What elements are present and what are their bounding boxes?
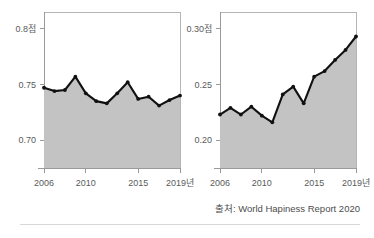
data-point-marker: [239, 113, 243, 117]
x-axis-tick-label: 2015: [128, 178, 148, 188]
x-axis-tick-label: 2015: [304, 178, 324, 188]
data-point-marker: [105, 101, 109, 105]
data-point-marker: [53, 89, 57, 93]
data-point-marker: [302, 101, 306, 105]
data-point-marker: [73, 75, 77, 79]
data-point-marker: [281, 93, 285, 97]
data-point-marker: [218, 113, 222, 117]
y-axis-tick-label: 0.8점: [15, 23, 36, 34]
x-axis-tick-label: 2006: [210, 178, 230, 188]
chart-panel-left: 0.8점0.750.702006201020152019년: [0, 0, 187, 196]
y-axis-tick-label: 0.30점: [186, 23, 212, 34]
data-point-marker: [291, 85, 295, 89]
data-point-marker: [42, 86, 46, 90]
x-axis-tick-label: 2019년: [342, 178, 370, 188]
data-point-marker: [249, 105, 253, 109]
source-note: 출처: World Hapiness Report 2020: [215, 201, 360, 215]
y-axis-tick-label: 0.25: [194, 80, 212, 90]
data-point-marker: [333, 58, 337, 62]
data-point-marker: [115, 91, 119, 95]
data-point-marker: [260, 114, 264, 118]
charts-row: 0.8점0.750.702006201020152019년 0.30점0.250…: [0, 0, 374, 196]
x-axis-tick-label: 2010: [76, 178, 96, 188]
data-point-marker: [126, 80, 130, 84]
y-axis-tick-label: 0.70: [18, 135, 36, 145]
line-area-chart-left: 0.8점0.750.702006201020152019년: [0, 0, 187, 196]
data-point-marker: [354, 35, 358, 39]
y-axis-tick-label: 0.75: [18, 80, 36, 90]
figure-container: 0.8점0.750.702006201020152019년 0.30점0.250…: [0, 0, 374, 238]
data-point-marker: [323, 69, 327, 73]
data-point-marker: [94, 99, 98, 103]
line-area-chart-right: 0.30점0.250.202006201020152019년: [176, 0, 363, 196]
data-point-marker: [84, 91, 88, 95]
source-note-row: 출처: World Hapiness Report 2020: [0, 196, 374, 220]
data-point-marker: [312, 75, 316, 79]
data-point-marker: [157, 104, 161, 108]
data-point-marker: [344, 48, 348, 52]
bottom-divider: [20, 224, 360, 225]
data-point-marker: [229, 106, 233, 110]
data-point-marker: [168, 98, 172, 102]
data-point-marker: [147, 95, 151, 99]
x-axis-tick-label: 2010: [252, 178, 272, 188]
chart-panel-right: 0.30점0.250.202006201020152019년: [176, 0, 363, 196]
data-point-marker: [136, 97, 140, 101]
y-axis-tick-label: 0.20: [194, 135, 212, 145]
x-axis-tick-label: 2006: [34, 178, 54, 188]
data-point-marker: [270, 120, 274, 124]
data-point-marker: [63, 88, 67, 92]
